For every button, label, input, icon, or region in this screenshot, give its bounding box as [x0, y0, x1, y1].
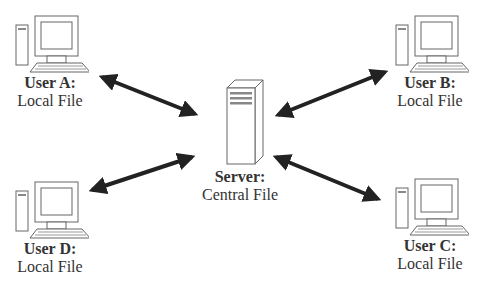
- node-title: User C:: [390, 237, 470, 255]
- arrow-user-c-server: [276, 157, 378, 199]
- node-user-b: User B: Local File: [390, 12, 470, 110]
- arrow-user-b-server: [278, 72, 385, 115]
- node-server: Server: Central File: [200, 78, 280, 204]
- node-subtitle: Local File: [10, 92, 90, 110]
- node-user-c: User C: Local File: [390, 175, 470, 273]
- node-subtitle: Local File: [390, 255, 470, 273]
- computer-icon: [11, 12, 89, 74]
- node-title: User B:: [390, 74, 470, 92]
- node-title: User D:: [10, 240, 90, 258]
- node-title: Server:: [200, 168, 280, 186]
- node-subtitle: Local File: [10, 258, 90, 276]
- arrow-user-d-server: [92, 157, 192, 190]
- node-user-d: User D: Local File: [10, 178, 90, 276]
- node-title: User A:: [10, 74, 90, 92]
- arrow-user-a-server: [102, 77, 195, 114]
- node-subtitle: Central File: [200, 186, 280, 204]
- computer-icon: [391, 175, 469, 237]
- computer-icon: [391, 12, 469, 74]
- node-user-a: User A: Local File: [10, 12, 90, 110]
- computer-icon: [11, 178, 89, 240]
- server-icon: [215, 78, 265, 168]
- node-subtitle: Local File: [390, 92, 470, 110]
